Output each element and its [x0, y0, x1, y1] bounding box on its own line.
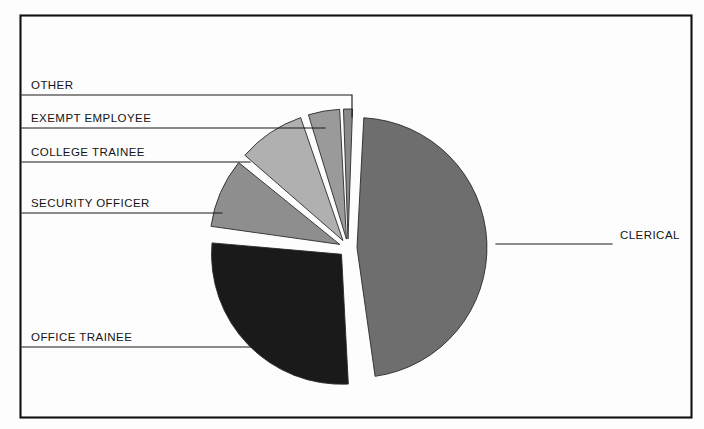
pie-chart-canvas: CLERICALOFFICE TRAINEESECURITY OFFICERCO… [0, 0, 704, 429]
figure-background [0, 0, 704, 429]
slice-label-security-officer: SECURITY OFFICER [31, 197, 150, 209]
slice-label-other: OTHER [31, 79, 74, 91]
slice-label-college-trainee: COLLEGE TRAINEE [31, 146, 145, 158]
pie-chart-figure: CLERICALOFFICE TRAINEESECURITY OFFICERCO… [0, 0, 704, 429]
slice-label-exempt-employee: EXEMPT EMPLOYEE [31, 112, 151, 124]
slice-label-office-trainee: OFFICE TRAINEE [31, 331, 132, 343]
slice-label-clerical: CLERICAL [620, 229, 680, 241]
